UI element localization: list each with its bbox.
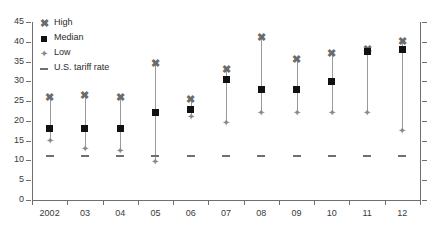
x-tick-label: 08 [241,209,281,218]
y-tick-mark-right [422,42,427,43]
marker-tariff [398,155,406,157]
y-tick-mark-right [422,200,427,201]
x-tick-mark [349,201,350,205]
marker-tariff [187,155,195,157]
marker-median [152,109,159,116]
x-axis-line [32,200,421,201]
marker-tariff [257,155,265,157]
marker-low: ✦ [397,126,407,136]
x-tick-mark [385,201,386,205]
x-tick-label: 11 [347,209,387,218]
marker-tariff [363,155,371,157]
marker-median [293,86,300,93]
legend-label-tariff: U.S. tariff rate [54,62,109,72]
marker-median [364,48,371,55]
y-tick-label: 15 [8,136,24,145]
range-bar [120,97,121,150]
y-tick-label: 0 [8,195,24,204]
x-tick-label: 10 [312,209,352,218]
marker-tariff [116,155,124,157]
y-tick-label: 35 [8,57,24,66]
y-tick-label: 20 [8,116,24,125]
right-axis-line [420,22,421,201]
y-tick-mark [26,121,31,122]
y-tick-mark [26,180,31,181]
marker-median [117,125,124,132]
marker-low: ✦ [292,108,302,118]
x-tick-mark [244,201,245,205]
legend-label-low: Low [54,47,71,57]
marker-high: ✖ [185,94,196,105]
marker-low: ✦ [327,108,337,118]
y-tick-mark [26,101,31,102]
x-tick-mark [32,201,33,205]
marker-low: ✦ [150,157,160,167]
marker-tariff [81,155,89,157]
marker-high: ✖ [291,54,302,65]
y-tick-mark-right [422,81,427,82]
y-tick-label: 5 [8,175,24,184]
y-tick-mark [26,81,31,82]
marker-median [258,86,265,93]
x-tick-label: 04 [100,209,140,218]
marker-low: ✦ [186,112,196,122]
marker-tariff [151,155,159,157]
y-tick-label: 30 [8,76,24,85]
y-tick-label: 25 [8,96,24,105]
legend-label-high: High [54,17,73,27]
y-tick-mark-right [422,62,427,63]
marker-median [223,76,230,83]
y-tick-mark-right [422,180,427,181]
y-tick-mark-right [422,22,427,23]
y-tick-mark [26,22,31,23]
y-tick-label: 10 [8,155,24,164]
range-bar [367,50,368,113]
marker-low: ✦ [362,108,372,118]
x-tick-label: 06 [171,209,211,218]
x-tick-mark [314,201,315,205]
y-tick-mark-right [422,101,427,102]
x-tick-mark [138,201,139,205]
x-tick-mark [67,201,68,205]
y-tick-label: 40 [8,37,24,46]
y-tick-mark [26,160,31,161]
marker-high: ✖ [44,92,55,103]
x-cross-icon: ✖ [38,18,50,29]
range-bar [261,38,262,113]
marker-high: ✖ [221,64,232,75]
chart-container: 0510152025303540452002030405060708091011… [0,0,433,237]
x-tick-mark [208,201,209,205]
x-tick-mark [173,201,174,205]
diamond-icon: ✦ [38,49,50,59]
marker-tariff [222,155,230,157]
legend-label-median: Median [54,32,84,42]
x-tick-label: 2002 [30,209,70,218]
range-bar [85,95,86,148]
marker-low: ✦ [45,136,55,146]
marker-median [81,125,88,132]
marker-tariff [46,155,54,157]
y-tick-mark [26,62,31,63]
dash-icon [40,68,48,70]
x-tick-label: 09 [277,209,317,218]
y-tick-mark-right [422,141,427,142]
square-icon [41,36,47,42]
marker-median [187,106,194,113]
x-tick-label: 05 [135,209,175,218]
marker-median [399,46,406,53]
range-bar [402,42,403,131]
x-tick-mark [103,201,104,205]
marker-median [46,125,53,132]
marker-high: ✖ [326,48,337,59]
y-tick-mark [26,200,31,201]
marker-low: ✦ [221,118,231,128]
marker-low: ✦ [80,144,90,154]
y-axis-line [32,22,33,201]
marker-high: ✖ [256,32,267,43]
marker-high: ✖ [115,92,126,103]
y-tick-mark [26,42,31,43]
marker-low: ✦ [256,108,266,118]
marker-high: ✖ [150,58,161,69]
x-tick-label: 03 [65,209,105,218]
y-tick-label: 45 [8,17,24,26]
